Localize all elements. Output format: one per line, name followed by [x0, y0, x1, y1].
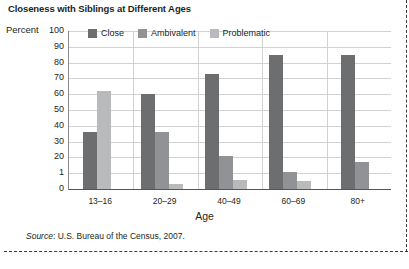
y-axis-tick-label: 1 — [36, 168, 64, 177]
category-separator — [327, 31, 328, 189]
source-text: : U.S. Bureau of the Census, 2007. — [53, 231, 185, 241]
y-axis-tick-label: 60 — [36, 89, 64, 98]
bar — [169, 184, 183, 189]
x-axis-title: Age — [0, 210, 409, 222]
legend-label: Close — [101, 28, 124, 38]
category-separator — [133, 31, 134, 189]
bar — [233, 180, 247, 189]
frame-bottom-edge — [4, 251, 408, 252]
x-axis-tick-label: 80+ — [326, 196, 390, 206]
x-axis-tick-label: 40–49 — [197, 196, 261, 206]
bar — [297, 181, 311, 189]
legend-label: Ambivalent — [151, 28, 196, 38]
bar — [341, 55, 355, 189]
bar — [219, 156, 233, 189]
bar — [283, 172, 297, 189]
y-axis-tick-label: 70 — [36, 73, 64, 82]
y-axis-tick-label: 0 — [36, 184, 64, 193]
bar — [83, 132, 97, 189]
bar — [155, 132, 169, 189]
x-axis-tick-label: 20–29 — [132, 196, 196, 206]
bar — [269, 55, 283, 189]
source-note: Source: U.S. Bureau of the Census, 2007. — [26, 231, 185, 241]
y-axis-tick-label: 90 — [36, 42, 64, 51]
bar — [205, 74, 219, 189]
legend-swatch-icon — [210, 29, 219, 38]
category-separator — [262, 31, 263, 189]
chart-legend: CloseAmbivalentProblematic — [88, 28, 270, 38]
x-axis-tick-label: 60–69 — [261, 196, 325, 206]
category-separator — [198, 31, 199, 189]
y-axis-tick-label: 100 — [36, 26, 64, 35]
legend-label: Problematic — [223, 28, 271, 38]
x-axis-tick-label: 13–16 — [68, 196, 132, 206]
legend-item: Close — [88, 28, 124, 38]
source-label: Source — [26, 231, 53, 241]
bar — [141, 94, 155, 189]
y-axis-tick-label: 80 — [36, 58, 64, 67]
gridline — [69, 47, 391, 48]
y-axis-tick-label: 50 — [36, 105, 64, 114]
y-axis-tick-label: 40 — [36, 121, 64, 130]
chart-title: Closeness with Siblings at Different Age… — [8, 3, 191, 14]
bar — [355, 162, 369, 189]
y-axis-tick-label: 20 — [36, 152, 64, 161]
legend-swatch-icon — [138, 29, 147, 38]
legend-item: Problematic — [210, 28, 271, 38]
legend-swatch-icon — [88, 29, 97, 38]
chart-figure: Closeness with Siblings at Different Age… — [0, 0, 409, 269]
y-axis-title: Percent — [6, 24, 39, 35]
y-axis-tick-label: 30 — [36, 137, 64, 146]
bar — [97, 91, 111, 189]
plot-area — [68, 31, 391, 190]
legend-item: Ambivalent — [138, 28, 196, 38]
